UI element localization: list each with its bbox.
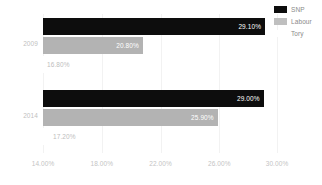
- bar-row: 25.90%: [43, 109, 278, 126]
- bar-row: 29.00%: [43, 90, 278, 107]
- bar-value-label: 17.20%: [53, 133, 76, 140]
- x-tick-label: 30.00%: [266, 160, 289, 167]
- x-tick-label: 22.00%: [149, 160, 172, 167]
- bar-row: 16.80%: [43, 56, 278, 73]
- bar-snp-2014[interactable]: 29.00%: [43, 90, 264, 107]
- category-label-2014: 2014: [0, 112, 38, 119]
- legend-swatch-icon: [274, 30, 287, 37]
- legend-item-labour[interactable]: Labour: [274, 16, 320, 27]
- x-tick-label: 18.00%: [90, 160, 113, 167]
- bar-group-2009: 29.10% 20.80% 16.80%: [43, 18, 278, 74]
- bar-value-label: 25.90%: [191, 114, 214, 121]
- bar-group-2014: 29.00% 25.90% 17.20%: [43, 90, 278, 146]
- x-tick-label: 26.00%: [208, 160, 231, 167]
- legend-label: Labour: [291, 18, 312, 25]
- legend: SNP Labour Tory: [274, 4, 320, 40]
- bar-value-label: 16.80%: [47, 61, 70, 68]
- legend-swatch-icon: [274, 18, 287, 25]
- bar-value-label: 29.10%: [238, 23, 261, 30]
- bar-chart: 29.10% 20.80% 16.80% 29.00%: [0, 0, 322, 185]
- legend-label: Tory: [291, 30, 304, 37]
- legend-swatch-icon: [274, 6, 287, 13]
- bar-row: 17.20%: [43, 128, 278, 145]
- legend-item-tory[interactable]: Tory: [274, 28, 320, 39]
- bar-row: 29.10%: [43, 18, 278, 35]
- bar-row: 20.80%: [43, 37, 278, 54]
- bar-value-label: 29.00%: [237, 95, 260, 102]
- legend-label: SNP: [291, 6, 305, 13]
- plot-area: 29.10% 20.80% 16.80% 29.00%: [43, 14, 278, 153]
- x-tick-label: 14.00%: [32, 160, 55, 167]
- legend-item-snp[interactable]: SNP: [274, 4, 320, 15]
- bar-labour-2014[interactable]: 25.90%: [43, 109, 218, 126]
- category-label-2009: 2009: [0, 40, 38, 47]
- bar-snp-2009[interactable]: 29.10%: [43, 18, 265, 35]
- bar-value-label: 20.80%: [116, 42, 139, 49]
- bar-labour-2009[interactable]: 20.80%: [43, 37, 143, 54]
- x-axis: 14.00% 18.00% 22.00% 26.00% 30.00%: [43, 160, 278, 172]
